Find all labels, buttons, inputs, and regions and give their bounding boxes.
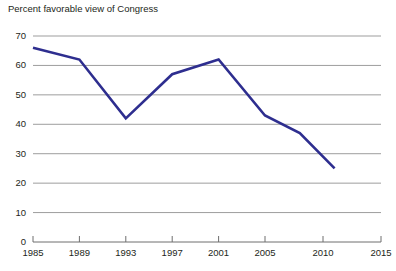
x-axis-tick-label: 2010: [303, 248, 343, 258]
y-axis-tick-label: 40: [0, 119, 26, 129]
x-axis-tick-label: 1985: [13, 248, 53, 258]
x-axis-tick-label: 1989: [59, 248, 99, 258]
x-axis-tick-label: 2001: [199, 248, 239, 258]
x-axis-tick-label: 1997: [152, 248, 192, 258]
y-axis-tick-label: 70: [0, 31, 26, 41]
x-axis-tick-label: 2005: [245, 248, 285, 258]
y-axis-tick-label: 0: [0, 237, 26, 247]
y-axis-tick-label: 10: [0, 208, 26, 218]
y-axis-tick-label: 50: [0, 90, 26, 100]
y-axis-tick-label: 30: [0, 149, 26, 159]
y-axis-tick-label: 60: [0, 60, 26, 70]
x-axis-ticks: [33, 236, 381, 242]
x-axis-tick-label: 1993: [106, 248, 146, 258]
y-axis-tick-label: 20: [0, 178, 26, 188]
x-axis-tick-label: 2015: [361, 248, 396, 258]
